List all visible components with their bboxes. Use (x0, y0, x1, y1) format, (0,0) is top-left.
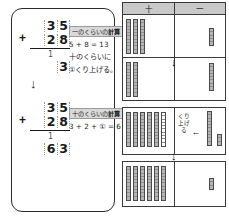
result-tens-digit-2: 6 (44, 143, 57, 156)
plus-sign-2: + (19, 114, 26, 126)
ones-group-regroup-full-ten (207, 111, 213, 157)
tens-column-header: 十 (122, 2, 175, 15)
unit-cube (210, 87, 214, 90)
ones-step-line-1: 5 + 8 = 13 (69, 40, 125, 50)
unit-cube (127, 93, 130, 96)
unit-cube (141, 50, 144, 53)
ones-place-tag-label: 一のくらいの (72, 28, 108, 35)
ten-rod (126, 166, 131, 201)
ten-rod (147, 166, 152, 201)
unit-cube (127, 197, 130, 200)
block-row-sum (122, 161, 226, 207)
ones-step-calculation: + 3 5 2 8 1 3 (18, 19, 70, 74)
unit-cube (162, 197, 165, 200)
ten-rod (154, 166, 159, 201)
tens-step-explanation: 十のくらいの計算 3 + 2 + ① = 6 (69, 102, 125, 132)
ones-step-explanation: 一のくらいの計算 5 + 8 = 13 十のくらいに ①くり上げる。 (69, 20, 125, 75)
unit-cube (148, 143, 151, 146)
unit-cube (208, 142, 212, 145)
ones-step-line-3: ①くり上げる。 (69, 65, 125, 75)
vertical-sum-ones-step: + 3 5 2 8 1 3 (18, 19, 70, 74)
ones-stack (209, 63, 215, 91)
rod-group-regroup (126, 111, 171, 152)
ten-rod (140, 112, 145, 147)
rod-group-addend-1 (126, 18, 171, 55)
ones-cell-regroup: くり上げる ← (175, 108, 226, 154)
unit-cube (134, 143, 137, 146)
ones-place-tag-suffix: 計算 (108, 28, 120, 35)
ten-rod (140, 166, 145, 201)
block-row-regroup: くり上げる ← ↓ (122, 107, 226, 155)
addend-top-tens-digit: 3 (44, 20, 57, 33)
tens-place-tag: 十のくらいの計算 (69, 108, 123, 119)
rod-group-addend-2 (126, 61, 171, 98)
block-row-addend-1 (122, 15, 226, 58)
ten-rod (140, 19, 145, 54)
result-ones-digit-2: 3 (57, 143, 70, 156)
ones-cell-addend-2 (175, 58, 226, 100)
carry-digit: 1 (44, 51, 57, 59)
ones-column-header: 一 (175, 2, 227, 15)
block-row-addend-2: ↓ (122, 58, 226, 101)
addend-bottom-tens-digit-2: 2 (44, 116, 57, 129)
vertical-sum-tens-step: + 3 5 2 8 1 6 3 (18, 101, 70, 156)
ones-stack (207, 111, 213, 146)
tens-place-tag-label: 十のくらいの (72, 110, 108, 117)
sum-rule (30, 48, 70, 49)
unit-cube (210, 42, 214, 45)
ones-stack (209, 28, 215, 46)
tens-place-tag-suffix: 計算 (108, 110, 120, 117)
step-down-arrow-icon: ↓ (30, 77, 37, 90)
unit-cube (155, 197, 158, 200)
carry-note-label: くり上げる (178, 113, 190, 134)
ones-cell-addend-1 (175, 15, 226, 57)
ten-rod (126, 112, 131, 147)
ones-group-addend-2 (209, 63, 215, 105)
ten-rod-empty (161, 112, 166, 147)
unit-cube (134, 50, 137, 53)
connector-arrow-icon-1: ↓ (171, 57, 177, 108)
right-panel: 十 一 ↓ くり上げ (122, 2, 226, 218)
unit-cube (127, 50, 130, 53)
worksheet-page: + 3 5 2 8 1 3 (0, 0, 229, 220)
ones-step-line-2: 十のくらいに (69, 52, 125, 62)
result-row-2: 6 3 (18, 142, 70, 156)
unit-cube (218, 142, 222, 145)
ten-rod (161, 166, 166, 201)
tens-step-calculation: + 3 5 2 8 1 6 3 (18, 101, 70, 156)
unit-cube (141, 143, 144, 146)
unit-cube (134, 197, 137, 200)
carry-arrow-icon: ← (192, 128, 201, 137)
tens-cell-regroup (123, 108, 175, 154)
ten-rod (133, 62, 138, 97)
sum-rule-2 (30, 130, 70, 131)
rod-group-sum (126, 165, 171, 204)
ten-rod (154, 112, 159, 147)
place-value-header-row: 十 一 (122, 2, 226, 15)
ones-place-tag: 一のくらいの計算 (69, 26, 123, 37)
ones-group-sum (209, 178, 215, 220)
unit-cube (155, 143, 158, 146)
unit-cube (127, 143, 130, 146)
addend-top-tens-digit-2: 3 (44, 102, 57, 115)
left-panel: + 3 5 2 8 1 3 (11, 8, 115, 212)
ten-rod (126, 62, 131, 97)
carry-digit-2: 1 (44, 133, 57, 141)
plus-sign: + (19, 32, 26, 44)
ones-cell-sum (175, 162, 226, 206)
ten-rod (133, 19, 138, 54)
ten-rod (133, 166, 138, 201)
ten-rod (147, 112, 152, 147)
unit-cube (162, 143, 165, 146)
tens-cell-addend-1 (123, 15, 175, 57)
unit-cube (210, 186, 214, 189)
ones-stack (209, 178, 215, 190)
unit-cube (141, 197, 144, 200)
result-row: 3 (18, 60, 70, 74)
addend-bottom-tens-digit: 2 (44, 34, 57, 47)
tens-cell-addend-2 (123, 58, 175, 100)
unit-cube (148, 197, 151, 200)
ten-rod (133, 112, 138, 147)
ten-rod (126, 19, 131, 54)
ones-stack (217, 134, 223, 146)
